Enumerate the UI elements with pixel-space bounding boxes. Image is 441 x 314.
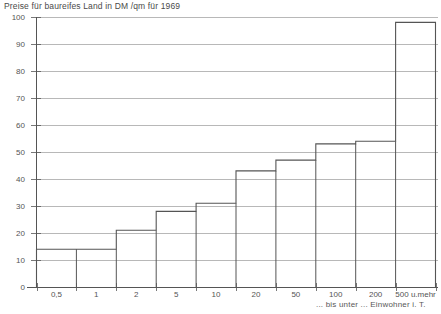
y-tick-label: 40 xyxy=(3,175,25,184)
y-tick-label: 100 xyxy=(3,13,25,22)
x-tick-label: 2 xyxy=(134,290,138,299)
chart-plot-area xyxy=(0,0,441,314)
x-tick-label: 20 xyxy=(251,290,260,299)
y-tick-label: 10 xyxy=(3,256,25,265)
x-tick-label: 0,5 xyxy=(51,290,62,299)
y-tick-label: 30 xyxy=(3,202,25,211)
y-tick-label: 80 xyxy=(3,67,25,76)
chart-title: Preise für baureifes Land in DM /qm für … xyxy=(4,1,180,11)
x-tick-label: 50 xyxy=(291,290,300,299)
gridlines xyxy=(37,18,439,261)
y-tick-label: 90 xyxy=(3,40,25,49)
y-tick-label: 0 xyxy=(3,283,25,292)
y-tick-label: 60 xyxy=(3,121,25,130)
y-axis-tick-labels: 0102030405060708090100 xyxy=(0,0,25,314)
y-tick-label: 50 xyxy=(3,148,25,157)
y-tick-label: 70 xyxy=(3,94,25,103)
x-tick-label: 5 xyxy=(174,290,178,299)
step-risers xyxy=(76,141,395,287)
land-price-step-chart: Preise für baureifes Land in DM /qm für … xyxy=(0,0,441,314)
x-tick-label: 200 xyxy=(369,290,382,299)
x-axis-caption: ... bis unter ... Einwohner i. T. xyxy=(316,300,426,309)
x-tick-label: 10 xyxy=(212,290,221,299)
x-tick-label: 1 xyxy=(94,290,98,299)
x-tick-label: 100 xyxy=(329,290,342,299)
x-tick-label: 500 u.mehr xyxy=(395,290,435,299)
y-tick-label: 20 xyxy=(3,229,25,238)
